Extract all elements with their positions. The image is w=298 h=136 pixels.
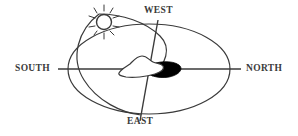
label-north: NORTH xyxy=(246,64,282,74)
sun-icon xyxy=(97,15,112,30)
label-west: WEST xyxy=(144,6,173,16)
label-east: EAST xyxy=(127,117,153,127)
diagram-canvas: SOUTH NORTH WEST EAST xyxy=(0,0,298,136)
label-south: SOUTH xyxy=(15,64,50,74)
